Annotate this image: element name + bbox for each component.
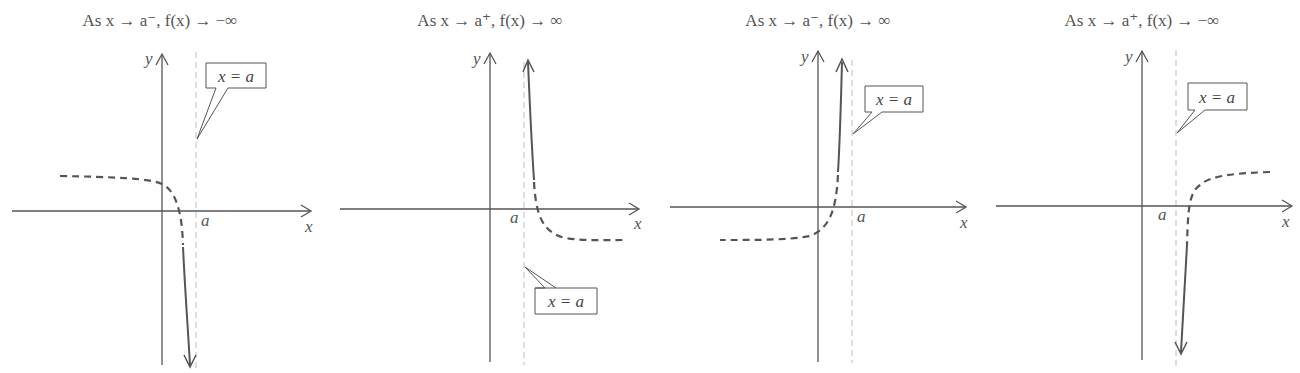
asymptote-tick-label: a	[857, 207, 866, 226]
x-axis-label: x	[304, 217, 313, 236]
y-axis-label: y	[1123, 47, 1133, 66]
callout-label: x = a	[875, 90, 912, 109]
panel-4: As x → a⁺, f(x) → −∞ y x a x = a	[990, 0, 1300, 373]
callout-label: x = a	[217, 67, 254, 86]
vertical-asymptote-figure: As x → a⁻, f(x) → −∞ y x a x = a As	[0, 0, 1300, 373]
graph: y x a x = a	[660, 0, 990, 373]
y-axis-label: y	[799, 47, 809, 66]
asymptote-tick-label: a	[1158, 205, 1167, 224]
graph: y x a x = a	[330, 0, 660, 373]
curve-solid	[528, 62, 534, 180]
curve-solid	[183, 247, 190, 365]
panel-1: As x → a⁻, f(x) → −∞ y x a x = a	[0, 0, 330, 373]
asymptote-callout: x = a	[197, 63, 266, 139]
curve-solid	[1181, 245, 1187, 352]
callout-label: x = a	[547, 292, 584, 311]
panel-2: As x → a⁺, f(x) → ∞ y x a x = a	[330, 0, 660, 373]
asymptote-tick-label: a	[201, 211, 210, 230]
x-axis-label: x	[1281, 212, 1290, 231]
x-axis-label: x	[633, 214, 642, 233]
asymptote-callout: x = a	[853, 86, 923, 134]
panel-3: As x → a⁻, f(x) → ∞ y x a x = a	[660, 0, 990, 373]
graph: y x a x = a	[990, 0, 1300, 373]
asymptote-callout: x = a	[525, 267, 597, 314]
curve-dashed	[1187, 172, 1270, 245]
curve-solid	[838, 62, 842, 172]
callout-label: x = a	[1198, 88, 1235, 107]
curve-dashed	[534, 182, 625, 240]
y-axis-label: y	[143, 49, 153, 68]
asymptote-tick-label: a	[510, 208, 519, 227]
y-axis-label: y	[471, 49, 481, 68]
asymptote-callout: x = a	[1177, 83, 1247, 133]
x-axis-label: x	[959, 213, 968, 232]
graph: y x a x = a	[0, 0, 330, 373]
